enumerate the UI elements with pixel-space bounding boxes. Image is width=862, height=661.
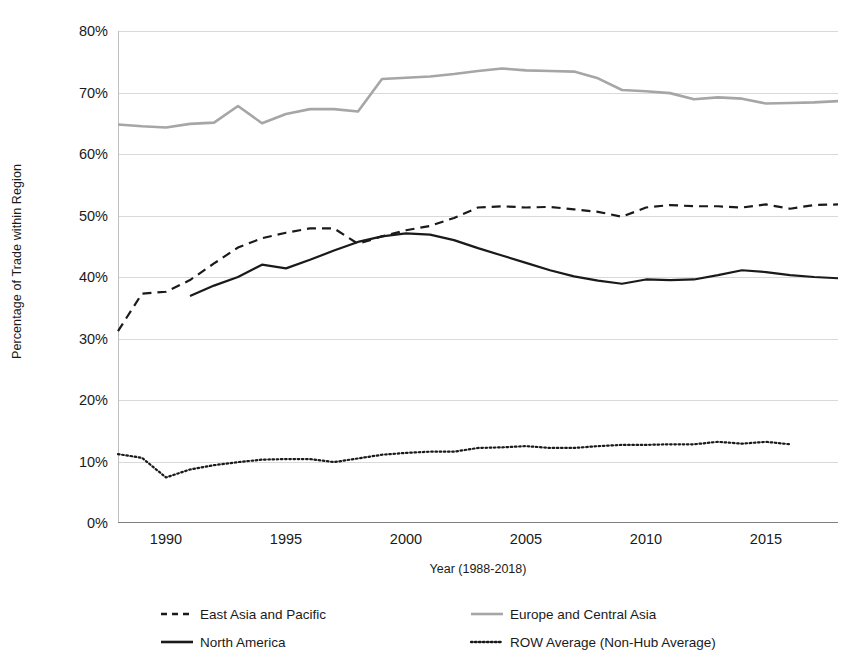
x-tick-label: 1995 [270, 531, 302, 547]
y-tick-label: 40% [48, 269, 108, 285]
legend-label: North America [200, 635, 286, 650]
plot-area [118, 31, 838, 523]
legend-swatch-solid-icon [470, 608, 504, 620]
series-line [118, 204, 838, 331]
x-tick-label: 1990 [150, 531, 182, 547]
x-axis-title: Year (1988-2018) [118, 562, 838, 576]
legend-item[interactable]: Europe and Central Asia [470, 607, 780, 622]
y-tick-label: 10% [48, 454, 108, 470]
y-tick-label: 70% [48, 85, 108, 101]
legend-item[interactable]: ROW Average (Non-Hub Average) [470, 635, 780, 650]
series-line [118, 69, 838, 128]
legend-swatch-dashed-icon [160, 608, 194, 620]
y-tick-label: 50% [48, 208, 108, 224]
x-tick-label: 2010 [630, 531, 662, 547]
series-lines [118, 31, 838, 523]
legend-item[interactable]: North America [160, 635, 470, 650]
x-tick-label: 2000 [390, 531, 422, 547]
y-axis-title: Percentage of Trade within Region [0, 0, 34, 523]
x-axis-tick-labels: 199019952000200520102015 [118, 531, 838, 555]
x-tick-label: 2015 [750, 531, 782, 547]
y-tick-label: 30% [48, 331, 108, 347]
chart-container: Percentage of Trade within Region 0%10%2… [0, 0, 862, 661]
chart-legend: East Asia and PacificEurope and Central … [160, 600, 780, 656]
y-tick-label: 20% [48, 392, 108, 408]
y-axis-tick-labels: 0%10%20%30%40%50%60%70%80% [48, 0, 108, 661]
x-tick-label: 2005 [510, 531, 542, 547]
legend-swatch-solid-icon [160, 636, 194, 648]
series-line [190, 233, 838, 296]
legend-item[interactable]: East Asia and Pacific [160, 607, 470, 622]
legend-swatch-dotted-icon [470, 636, 504, 648]
legend-label: East Asia and Pacific [200, 607, 326, 622]
series-line [118, 442, 790, 478]
y-tick-label: 80% [48, 23, 108, 39]
legend-label: ROW Average (Non-Hub Average) [510, 635, 716, 650]
y-tick-label: 0% [48, 515, 108, 531]
y-tick-label: 60% [48, 146, 108, 162]
legend-label: Europe and Central Asia [510, 607, 656, 622]
